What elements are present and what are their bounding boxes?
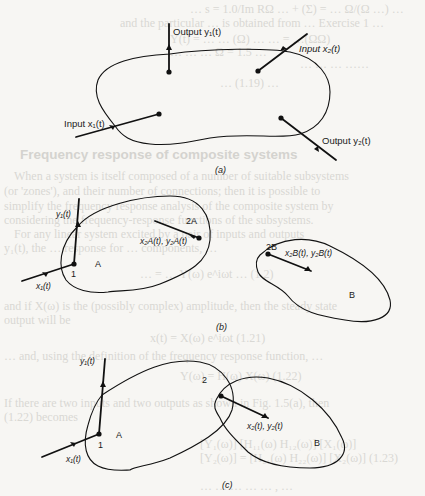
label-x2A-y2A-b: x₂A(t), y₂A(t) [140, 237, 187, 246]
label-y1-b: y₁(t) [56, 210, 71, 219]
label-input-x1-a: Input x₁(t) [64, 119, 105, 129]
output-y1-arrow-c [99, 359, 105, 434]
label-region-A-c: A [116, 430, 122, 440]
label-point-1-b: 1 [71, 269, 76, 279]
system-boundary-a [96, 49, 330, 144]
label-point-1-c: 1 [98, 440, 103, 450]
label-x2-y2-c: x₂(t), y₂(t) [247, 422, 283, 431]
label-output-y1-a: Output y₁(t) [173, 27, 221, 37]
input-x1-arrow-b [22, 264, 74, 281]
figure-system-diagrams [0, 0, 425, 496]
label-point-2B-b: 2B [266, 242, 277, 252]
label-region-A-b: A [95, 259, 101, 269]
label-output-y2-a: Output y₂(t) [322, 136, 371, 146]
caption-b: (b) [216, 322, 227, 332]
subsystem-boundary-A-c [85, 361, 233, 470]
label-point-2-c: 2 [202, 375, 207, 385]
caption-c: (c) [222, 480, 233, 490]
port-2-arrow-c [221, 396, 268, 418]
subsystem-boundary-A-b [61, 196, 210, 293]
output-y1-arrow-b [74, 199, 79, 264]
label-region-B-c: B [314, 438, 320, 448]
label-y1-c: y₁(t) [80, 357, 95, 366]
label-x1-c: x₁(t) [66, 455, 81, 464]
label-x1-b: x₁(t) [36, 282, 51, 291]
label-x2B-y2B-b: x₂B(t), y₂B(t) [285, 249, 332, 258]
label-point-2A-b: 2A [186, 216, 197, 226]
label-input-x2-a: Input x₂(t) [299, 44, 340, 54]
caption-a: (a) [215, 165, 226, 175]
label-region-B-b: B [349, 290, 355, 300]
